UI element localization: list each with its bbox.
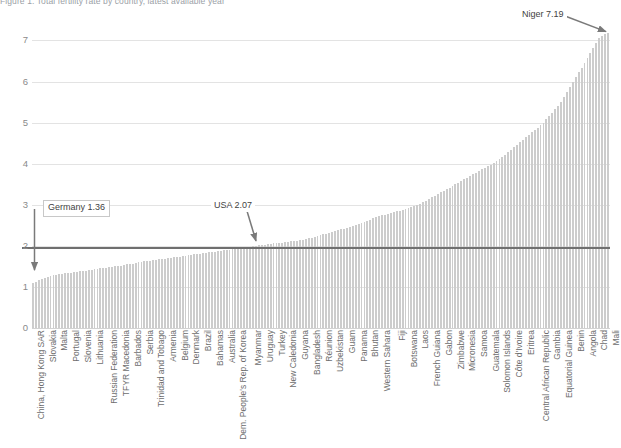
bar [138, 262, 140, 328]
bar [554, 109, 556, 328]
bar [82, 271, 84, 328]
bar [135, 263, 137, 328]
bar [372, 218, 374, 328]
bar [402, 210, 404, 328]
bar [443, 191, 445, 328]
bar [581, 68, 583, 328]
bar [276, 243, 278, 328]
bar [472, 174, 474, 328]
bar [182, 256, 184, 328]
bar [534, 130, 536, 328]
bar [601, 36, 603, 328]
x-label-samoa: Samoa [480, 330, 489, 357]
x-label-mali: Mali [612, 330, 621, 346]
bar [434, 196, 436, 328]
bar [440, 192, 442, 328]
bar [199, 254, 201, 328]
x-label-australia: Australia [228, 330, 237, 363]
bar [202, 253, 204, 328]
x-label-benin: Benin [577, 330, 586, 352]
bar [176, 257, 178, 328]
x-label-uruguay: Uruguay [266, 330, 275, 362]
x-label-laos: Laos [421, 330, 430, 348]
bar [460, 181, 462, 328]
bar [557, 106, 559, 328]
bar [437, 194, 439, 328]
bar [232, 249, 234, 328]
x-axis-category-labels: China, Hong Kong SARSlovakiaMaltaPortuga… [32, 330, 610, 448]
x-label-lithuania: Lithuania [96, 330, 105, 365]
x-label-denmark: Denmark [192, 330, 201, 364]
bar [287, 242, 289, 328]
bar [270, 244, 272, 328]
bar [578, 72, 580, 328]
bar [337, 230, 339, 328]
bar [522, 140, 524, 328]
bar [493, 163, 495, 328]
bar [531, 132, 533, 328]
bar [340, 229, 342, 328]
bar [560, 102, 562, 328]
bar [226, 250, 228, 328]
bar [261, 245, 263, 328]
x-label-solomon-islands: Solomon Islands [503, 330, 512, 393]
bar [449, 188, 451, 328]
bar [317, 236, 319, 328]
bar [446, 189, 448, 328]
bar [88, 270, 90, 328]
bar [452, 186, 454, 328]
bar [416, 205, 418, 328]
x-label-barbados: Barbados [134, 330, 143, 366]
bar [111, 267, 113, 328]
bar [305, 239, 307, 328]
bar [102, 268, 104, 328]
bar [510, 150, 512, 328]
bar [123, 265, 125, 328]
replacement-rate-line [32, 247, 610, 249]
bar [44, 278, 46, 328]
x-label-equatorial-guinea: Equatorial Guinea [565, 330, 574, 398]
bar [598, 38, 600, 328]
bar [507, 152, 509, 328]
bar [208, 252, 210, 328]
y-tick-label-3: 3 [4, 200, 28, 210]
bar [243, 247, 245, 328]
bar [543, 123, 545, 328]
bar [390, 213, 392, 328]
bar [217, 251, 219, 328]
bar [220, 251, 222, 328]
x-label-china-hong-kong-sar: China, Hong Kong SAR [37, 330, 46, 419]
bar [50, 276, 52, 328]
bar [146, 261, 148, 328]
bar [334, 231, 336, 328]
bar [79, 271, 81, 328]
bar [355, 225, 357, 328]
bar [419, 204, 421, 328]
bar [369, 220, 371, 328]
bar [158, 259, 160, 328]
bar [343, 229, 345, 328]
x-label-guyana: Guyana [301, 330, 310, 360]
bar [38, 280, 40, 328]
bar [76, 272, 78, 328]
bar [454, 184, 456, 328]
bar [346, 228, 348, 328]
bar [179, 257, 181, 328]
bar [364, 222, 366, 328]
bar [164, 259, 166, 328]
bar [466, 178, 468, 328]
bar [537, 128, 539, 328]
x-label-french-guiana: French Guiana [433, 330, 442, 386]
bar [302, 240, 304, 328]
bar [478, 171, 480, 328]
bar [528, 135, 530, 328]
bar [141, 262, 143, 328]
x-label-trinidad-and-tobago: Trinidad and Tobago [157, 330, 166, 407]
bar [211, 252, 213, 328]
bar [196, 254, 198, 328]
bar [167, 258, 169, 328]
x-label-angola: Angola [589, 330, 598, 356]
annotation-niger: Niger 7.19 [519, 9, 567, 21]
y-tick-label-7: 7 [4, 35, 28, 45]
bar [595, 43, 597, 328]
